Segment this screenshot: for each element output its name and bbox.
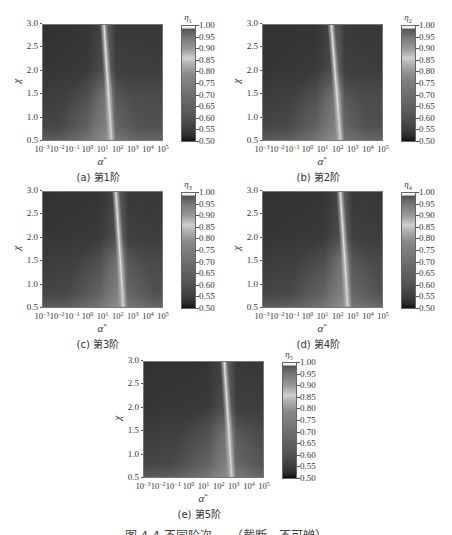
y-tick-label: 3.0 [121,356,139,365]
x-tick-label: 10−1 [285,311,300,321]
x-tick-label: 10−1 [285,144,300,154]
y-tick-label: 2.5 [121,379,139,388]
x-tick-label: 10−3 [35,144,50,154]
x-tick-label: 103 [347,311,359,321]
colorbar [282,362,297,479]
y-tick-label: 1.0 [20,113,38,122]
colorbar-tick-label: 0.65 [419,269,435,278]
colorbar-tick-label: 1.00 [199,21,215,30]
y-tick-label: 1.0 [20,280,38,289]
x-tick-label: 105 [157,311,169,321]
y-axis-label: χ [230,78,242,83]
colorbar-tick-label: 0.80 [419,67,435,76]
colorbar-tick-label: 0.60 [419,114,435,123]
colorbar-tick-label: 0.65 [419,102,435,111]
colorbar-tick-label: 0.70 [199,91,215,100]
x-tick-label: 104 [362,311,374,321]
colorbar-tick-label: 1.00 [300,358,316,367]
x-tick-label: 102 [332,144,344,154]
x-tick-label: 103 [127,311,139,321]
colorbar-tick-label: 0.85 [419,56,435,65]
colorbar-tick-label: 0.55 [199,292,215,301]
subfigure-caption: (e) 第5阶 [178,506,222,521]
y-tick-label: 2.0 [20,66,38,75]
colorbar-tick-label: 0.85 [300,393,316,402]
x-tick-label: 10−1 [65,311,80,321]
x-tick-label: 100 [302,144,314,154]
x-tick-label: 101 [97,311,109,321]
x-tick-label: 101 [198,481,210,491]
colorbar-tick-label: 0.75 [419,79,435,88]
x-tick-label: 102 [213,481,225,491]
x-tick-label: 104 [362,144,374,154]
colorbar-title: η1 [178,12,198,24]
x-tick-label: 105 [377,144,389,154]
x-tick-label: 105 [377,311,389,321]
colorbar [181,192,196,309]
chart-panel-c: 0.51.01.52.02.53.0χ10−310−210−1100101102… [0,167,226,335]
y-tick-label: 3.0 [240,19,258,28]
y-tick-label: 2.5 [20,42,38,51]
colorbar-tick-label: 0.60 [199,281,215,290]
chart-panel-d: 0.51.01.52.02.53.0χ10−310−210−1100101102… [220,167,446,335]
y-tick-label: 3.0 [20,19,38,28]
x-tick-label: 105 [157,144,169,154]
colorbar-title: η5 [279,349,299,361]
colorbar-tick-label: 0.80 [300,404,316,413]
colorbar-tick-label: 0.60 [300,451,316,460]
colorbar-tick-label: 0.85 [199,56,215,65]
x-tick-label: 102 [332,311,344,321]
colorbar-tick-label: 0.80 [199,234,215,243]
colorbar [401,192,416,309]
colorbar-tick-label: 0.80 [419,234,435,243]
y-tick-label: 1.5 [20,89,38,98]
colorbar [401,25,416,142]
x-tick-label: 102 [112,144,124,154]
colorbar-tick-label: 0.90 [300,381,316,390]
y-tick-label: 2.0 [121,403,139,412]
x-axis-label: α* [318,155,327,167]
colorbar-tick-label: 0.95 [419,33,435,42]
heatmap-low-chi-band [43,25,162,140]
colorbar-tick-label: 0.55 [199,125,215,134]
y-tick-label: 2.0 [240,66,258,75]
y-tick-label: 3.0 [240,186,258,195]
heatmap-plot-area [42,191,163,308]
colorbar-tick-label: 0.75 [199,246,215,255]
figure-caption-clipped: 图 4-4 不同阶次 … （截断，不可辨） [0,528,452,535]
y-tick-label: 1.5 [20,256,38,265]
colorbar-tick-label: 1.00 [419,188,435,197]
x-axis-label: α* [98,322,107,334]
heatmap-plot-area [42,24,163,141]
colorbar-tick-label: 0.70 [199,258,215,267]
chart-panel-a: 0.51.01.52.02.53.0χ10−310−210−1100101102… [0,0,226,168]
colorbar-tick-label: 0.50 [300,474,316,483]
colorbar-tick-label: 0.85 [419,223,435,232]
y-tick-label: 1.0 [240,113,258,122]
y-tick-label: 1.0 [121,450,139,459]
heatmap-plot-area [262,24,383,141]
y-tick-label: 1.5 [121,426,139,435]
colorbar-tick-label: 0.95 [199,200,215,209]
y-axis-label: χ [111,415,123,420]
y-tick-label: 2.0 [240,233,258,242]
heatmap-low-chi-band [263,25,382,140]
x-tick-label: 10−2 [50,311,65,321]
x-tick-label: 10−1 [65,144,80,154]
x-axis-label: α* [98,155,107,167]
colorbar-tick-label: 0.90 [199,211,215,220]
colorbar-title: η2 [398,12,418,24]
x-tick-label: 100 [183,481,195,491]
chart-panel-e: 0.51.01.52.02.53.0χ10−310−210−1100101102… [101,337,327,505]
x-tick-label: 102 [112,311,124,321]
x-tick-label: 104 [142,311,154,321]
heatmap-low-chi-band [263,192,382,307]
x-tick-label: 10−3 [255,311,270,321]
colorbar-tick-label: 0.90 [199,44,215,53]
x-axis-label: α* [318,322,327,334]
colorbar-tick-label: 0.90 [419,44,435,53]
y-axis-label: χ [10,78,22,83]
colorbar-tick-label: 0.60 [199,114,215,123]
x-tick-label: 100 [82,311,94,321]
x-tick-label: 103 [228,481,240,491]
